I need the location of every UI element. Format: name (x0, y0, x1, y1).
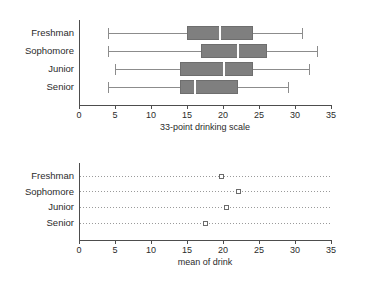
median-senior (194, 80, 196, 94)
boxplot-ticklabel-25: 25 (244, 110, 274, 120)
boxplot-ticklabel-20: 20 (208, 110, 238, 120)
dotplot-ticklabel-30: 30 (280, 245, 310, 255)
whisker-line-junior-upper (252, 69, 310, 70)
whisker-line-sophomore (108, 51, 201, 52)
dotplot-panel: 0 5 10 15 20 25 30 35 mean of drink Fres… (0, 145, 379, 290)
box-sophomore (201, 44, 267, 58)
dotplot-category-sophomore: Sophomore (0, 186, 74, 197)
dotplot-marker-senior (203, 221, 208, 226)
whisker-cap-low-junior (115, 64, 116, 75)
dotplot-ticklabel-15: 15 (172, 245, 202, 255)
dotplot-gridline-junior (80, 207, 332, 208)
dotplot-tick-20 (223, 240, 224, 244)
dotplot-tick-10 (151, 240, 152, 244)
whisker-cap-low-sophomore (108, 46, 109, 57)
dotplot-tick-0 (79, 240, 80, 244)
boxplot-x-axis-title: 33-point drinking scale (122, 122, 288, 132)
boxplot-ticklabel-10: 10 (136, 110, 166, 120)
boxplot-tick-5 (115, 105, 116, 109)
dotplot-ticklabel-25: 25 (244, 245, 274, 255)
dotplot-gridline-sophomore (80, 191, 332, 192)
dotplot-marker-freshman (219, 174, 224, 179)
whisker-line-senior (108, 87, 181, 88)
boxplot-category-freshman: Freshman (0, 27, 74, 38)
boxplot-ticklabel-30: 30 (280, 110, 310, 120)
dotplot-y-axis (79, 163, 80, 240)
boxplot-tick-25 (259, 105, 260, 109)
boxplot-ticklabel-5: 5 (100, 110, 130, 120)
boxplot-tick-10 (151, 105, 152, 109)
median-sophomore (237, 44, 239, 58)
boxplot-tick-20 (223, 105, 224, 109)
dotplot-ticklabel-5: 5 (100, 245, 130, 255)
whisker-cap-low-senior (108, 82, 109, 93)
boxplot-tick-30 (295, 105, 296, 109)
chart-figure: 0 5 10 15 20 25 30 35 33-point drinking … (0, 0, 379, 290)
boxplot-ticklabel-35: 35 (316, 110, 346, 120)
boxplot-ticklabel-0: 0 (64, 110, 94, 120)
dotplot-ticklabel-10: 10 (136, 245, 166, 255)
box-junior (180, 62, 253, 76)
median-junior (223, 62, 225, 76)
whisker-line-freshman-upper (252, 33, 303, 34)
boxplot-tick-15 (187, 105, 188, 109)
dotplot-marker-junior (224, 205, 229, 210)
whisker-line-sophomore-upper (266, 51, 318, 52)
dotplot-tick-35 (331, 240, 332, 244)
boxplot-ticklabel-15: 15 (172, 110, 202, 120)
dotplot-gridline-freshman (80, 176, 332, 177)
dotplot-ticklabel-20: 20 (208, 245, 238, 255)
boxplot-category-senior: Senior (0, 81, 74, 92)
boxplot-tick-35 (331, 105, 332, 109)
dotplot-ticklabel-35: 35 (316, 245, 346, 255)
boxplot-panel: 0 5 10 15 20 25 30 35 33-point drinking … (0, 0, 379, 145)
boxplot-y-axis (79, 20, 80, 105)
boxplot-category-junior: Junior (0, 63, 74, 74)
dotplot-category-junior: Junior (0, 201, 74, 212)
dotplot-category-senior: Senior (0, 217, 74, 228)
dotplot-x-axis-title: mean of drink (142, 257, 268, 267)
dotplot-tick-5 (115, 240, 116, 244)
whisker-line-senior-upper (237, 87, 289, 88)
boxplot-category-sophomore: Sophomore (0, 45, 74, 56)
whisker-line-junior (115, 69, 181, 70)
dotplot-category-freshman: Freshman (0, 170, 74, 181)
dotplot-tick-25 (259, 240, 260, 244)
dotplot-tick-15 (187, 240, 188, 244)
whisker-cap-low-freshman (108, 28, 109, 39)
dotplot-tick-30 (295, 240, 296, 244)
dotplot-marker-sophomore (236, 189, 241, 194)
median-freshman (219, 26, 221, 40)
dotplot-ticklabel-0: 0 (64, 245, 94, 255)
boxplot-tick-0 (79, 105, 80, 109)
box-senior (180, 80, 238, 94)
